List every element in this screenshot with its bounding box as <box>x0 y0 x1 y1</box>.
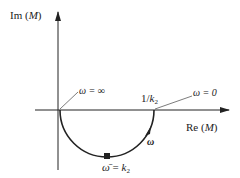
y-axis-label-prefix: Im ( <box>10 9 29 21</box>
y-axis-label-var: M <box>29 9 38 21</box>
intercept-label: 1/k2 <box>141 93 158 106</box>
omega-direction-label: ω <box>147 137 154 147</box>
direction-arrow-icon <box>145 126 151 136</box>
x-axis-label-suffix: ) <box>214 121 218 133</box>
y-axis-label: Im (M) <box>10 10 41 21</box>
intercept-num: 1/ <box>141 92 150 104</box>
x-axis-label-prefix: Re ( <box>186 121 205 133</box>
equals-sign: = <box>110 161 122 173</box>
omega-zero-leader <box>155 96 192 109</box>
k-sub: 2 <box>126 167 130 175</box>
omega-zero-label: ω = 0 <box>193 88 217 98</box>
omega-bar-equation: ω̄ = k2 <box>102 162 130 175</box>
omega-inf-leader <box>60 92 78 109</box>
square-marker <box>104 153 110 159</box>
semicircle-locus <box>60 110 154 157</box>
omega-bar: ω̄ <box>102 161 110 173</box>
diagram-canvas: Im (M) Re (M) ω = ∞ ω = 0 1/k2 ω ω̄ = k2 <box>0 0 240 178</box>
y-axis-label-suffix: ) <box>38 9 42 21</box>
x-axis-label-var: M <box>205 121 214 133</box>
omega-infinity-label: ω = ∞ <box>79 86 105 96</box>
x-axis-label: Re (M) <box>186 122 217 133</box>
intercept-sub: 2 <box>154 98 158 106</box>
